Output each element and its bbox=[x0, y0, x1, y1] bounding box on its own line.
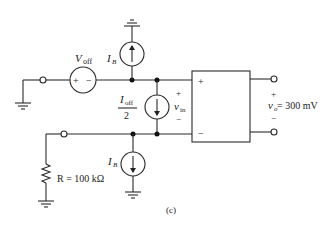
vin-label: v bbox=[174, 100, 179, 112]
resistor-label: R = 100 kΩ bbox=[57, 173, 104, 184]
output-terminal-bottom bbox=[271, 129, 277, 135]
node-dot bbox=[155, 132, 160, 137]
vo-minus: − bbox=[271, 113, 276, 123]
arrow-down-icon bbox=[130, 168, 136, 173]
circuit-diagram: + − V off I B I off 2 + v in − bbox=[0, 0, 334, 226]
arrow-up-icon bbox=[129, 45, 135, 50]
current-source-ib-top: I B bbox=[106, 20, 144, 80]
ib-bottom-sub: B bbox=[113, 161, 118, 169]
box-minus: − bbox=[198, 128, 204, 139]
vin-plus: + bbox=[176, 88, 181, 98]
vo-label: v bbox=[268, 99, 273, 111]
vo-value: = 300 mV bbox=[277, 100, 318, 111]
voff-minus: − bbox=[86, 75, 92, 86]
vin-sub: in bbox=[180, 106, 186, 114]
current-source-ioff-half: I off 2 bbox=[118, 80, 169, 134]
ioff-den: 2 bbox=[124, 110, 129, 121]
vin-minus: − bbox=[176, 114, 181, 124]
box-plus: + bbox=[198, 76, 204, 87]
output-terminal-top bbox=[271, 76, 277, 82]
amplifier-box: + − bbox=[192, 71, 250, 142]
voff-plus: + bbox=[73, 75, 79, 86]
figure-caption: (c) bbox=[166, 205, 176, 215]
voff-label: V bbox=[75, 52, 83, 64]
ioff-sub: off bbox=[125, 99, 134, 107]
resistor-r: R = 100 kΩ bbox=[38, 134, 104, 207]
arrow-down-icon bbox=[154, 111, 160, 116]
input-terminal-bottom bbox=[61, 131, 67, 137]
voff-sub: off bbox=[83, 57, 93, 66]
vo-plus: + bbox=[271, 89, 276, 99]
ib-top-sub: B bbox=[112, 58, 117, 66]
voltage-source-voff: + − V off bbox=[70, 52, 96, 93]
current-source-ib-bottom: I B bbox=[107, 134, 145, 198]
left-ground-icon bbox=[15, 80, 31, 109]
input-terminal-top bbox=[40, 77, 46, 83]
